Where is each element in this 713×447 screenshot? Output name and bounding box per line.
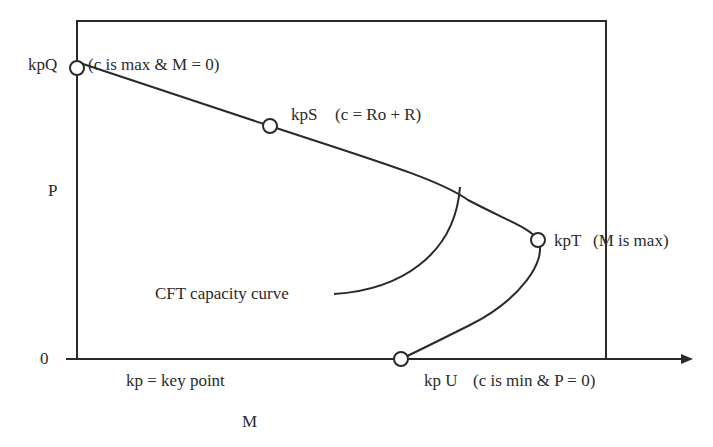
curve-label: CFT capacity curve	[155, 285, 289, 302]
key-point-kpU	[394, 352, 408, 366]
x-axis-label: M	[242, 413, 257, 430]
kpS-label: kpS	[291, 106, 317, 123]
kpS-desc: (c = Ro + R)	[335, 106, 421, 123]
curve-leader-line	[334, 187, 460, 294]
key-point-kpQ	[70, 61, 84, 75]
key-point-legend: kp = key point	[126, 372, 225, 389]
kpU-label: kp U	[424, 372, 458, 389]
y-axis-label: P	[48, 182, 57, 199]
origin-tick-label: 0	[40, 350, 49, 367]
key-point-kpS	[263, 119, 277, 133]
x-axis-arrow-icon	[681, 354, 693, 364]
key-point-kpT	[531, 233, 545, 247]
kpQ-label: kpQ	[28, 56, 57, 73]
kpT-label: kpT	[554, 232, 581, 249]
kpQ-desc: (c is max & M = 0)	[88, 56, 219, 73]
kpT-desc: (M is max)	[593, 232, 669, 249]
kpU-desc: (c is min & P = 0)	[473, 372, 595, 389]
